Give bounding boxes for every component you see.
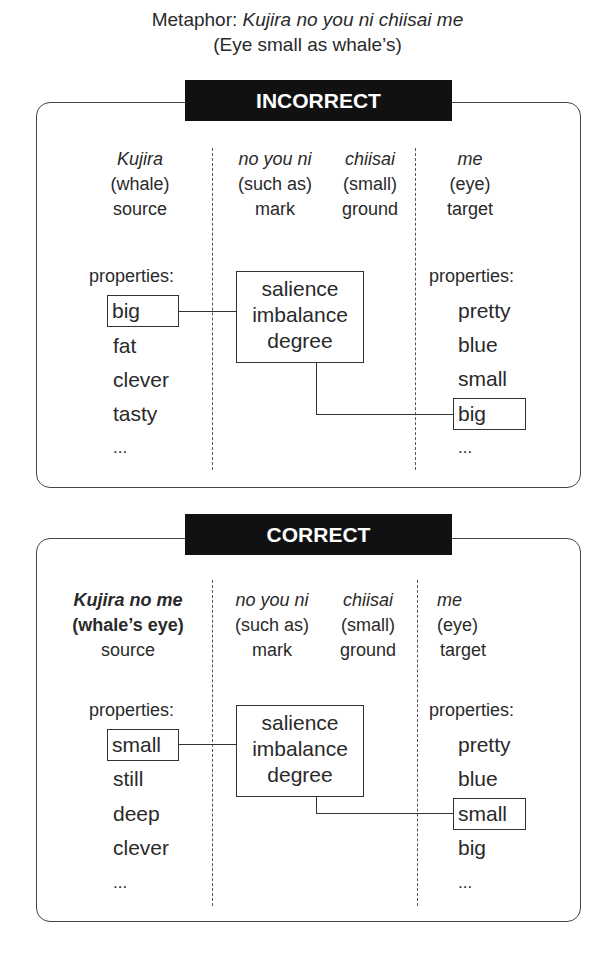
source-role: source	[90, 197, 190, 222]
ground-word: chiisai	[328, 588, 408, 613]
center-line-salience: salience	[237, 276, 363, 302]
target-property: pretty	[458, 728, 511, 762]
source-property: tasty	[113, 397, 157, 431]
ground-gloss: (small)	[330, 172, 410, 197]
connector-target-vertical	[316, 363, 317, 414]
mark-gloss: (such as)	[222, 613, 322, 638]
divider-source-mark	[212, 580, 213, 906]
target-word: me	[430, 147, 510, 172]
mark-gloss: (such as)	[225, 172, 325, 197]
target-properties-heading: properties:	[429, 698, 514, 722]
source-property: clever	[113, 363, 169, 397]
mark-column: no you ni (such as) mark	[222, 588, 322, 663]
source-property-highlighted: big	[107, 295, 179, 327]
source-property: clever	[113, 831, 169, 865]
target-property: blue	[458, 328, 498, 362]
source-column: Kujira no me (whale’s eye) source	[58, 588, 198, 663]
mark-word: no you ni	[222, 588, 322, 613]
divider-ground-target	[417, 580, 418, 906]
target-property: big	[458, 831, 486, 865]
title-phrase: Kujira no you ni chiisai me	[243, 9, 464, 30]
title-prefix: Metaphor:	[152, 9, 243, 30]
target-properties-heading: properties:	[429, 264, 514, 288]
center-line-imbalance: imbalance	[237, 302, 363, 328]
ground-column: chiisai (small) ground	[328, 588, 408, 663]
target-column: me (eye) target	[430, 147, 510, 222]
center-line-degree: degree	[237, 328, 363, 354]
salience-imbalance-box: salience imbalance degree	[236, 271, 364, 363]
figure-title: Metaphor: Kujira no you ni chiisai me	[0, 8, 615, 32]
target-property-ellipsis: ...	[458, 431, 472, 465]
target-property: small	[458, 362, 507, 396]
connector-target	[316, 414, 453, 415]
target-property-highlighted: small	[453, 798, 526, 830]
target-property: blue	[458, 762, 498, 796]
salience-imbalance-box: salience imbalance degree	[236, 705, 364, 797]
ground-word: chiisai	[330, 147, 410, 172]
source-property-highlighted: small	[107, 729, 179, 761]
ground-role: ground	[330, 197, 410, 222]
ground-gloss: (small)	[328, 613, 408, 638]
target-role: target	[430, 197, 510, 222]
connector-source	[179, 311, 236, 312]
target-word: me	[437, 588, 497, 613]
target-property-ellipsis: ...	[458, 866, 472, 900]
ground-role: ground	[328, 638, 408, 663]
source-property: still	[113, 762, 143, 796]
connector-source	[179, 744, 236, 745]
incorrect-label: INCORRECT	[185, 80, 452, 121]
target-role: target	[437, 638, 497, 663]
mark-role: mark	[225, 197, 325, 222]
source-property: fat	[113, 329, 136, 363]
target-gloss: (eye)	[437, 613, 497, 638]
source-word: Kujira	[90, 147, 190, 172]
center-line-degree: degree	[237, 762, 363, 788]
source-gloss: (whale)	[90, 172, 190, 197]
center-line-imbalance: imbalance	[237, 736, 363, 762]
source-word: Kujira no me	[58, 588, 198, 613]
divider-source-mark	[212, 148, 213, 470]
mark-column: no you ni (such as) mark	[225, 147, 325, 222]
source-properties-heading: properties:	[89, 698, 174, 722]
source-property-ellipsis: ...	[113, 866, 127, 900]
source-role: source	[58, 638, 198, 663]
ground-column: chiisai (small) ground	[330, 147, 410, 222]
target-property-highlighted: big	[453, 398, 526, 430]
mark-word: no you ni	[225, 147, 325, 172]
source-gloss: (whale’s eye)	[58, 613, 198, 638]
title-translation: (Eye small as whale’s)	[0, 33, 615, 57]
target-column: me (eye) target	[437, 588, 497, 663]
target-property: pretty	[458, 294, 511, 328]
source-property: deep	[113, 797, 160, 831]
divider-ground-target	[415, 148, 416, 470]
source-column: Kujira (whale) source	[90, 147, 190, 222]
connector-target-vertical	[316, 797, 317, 813]
connector-target	[316, 813, 453, 814]
source-property-ellipsis: ...	[113, 431, 127, 465]
mark-role: mark	[222, 638, 322, 663]
source-properties-heading: properties:	[89, 264, 174, 288]
center-line-salience: salience	[237, 710, 363, 736]
target-gloss: (eye)	[430, 172, 510, 197]
correct-label: CORRECT	[185, 514, 452, 555]
